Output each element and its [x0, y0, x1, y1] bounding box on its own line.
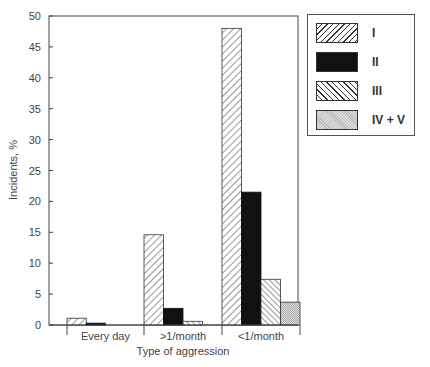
legend-item-IV-V: IV + V — [316, 109, 405, 131]
y-tick-label: 50 — [29, 10, 41, 22]
y-tick-label: 0 — [35, 319, 41, 331]
bar-II-1 — [164, 308, 184, 325]
y-axis-label: Incidents, % — [7, 140, 19, 200]
legend-item-I: I — [316, 22, 375, 44]
swatch-stipple-gray-icon — [316, 110, 358, 130]
x-tick-label: Every day — [81, 330, 130, 342]
y-tick-label: 30 — [29, 134, 41, 146]
swatch-hatch-backward-icon — [316, 81, 358, 101]
y-tick-label: 10 — [29, 257, 41, 269]
bar-I-0 — [67, 318, 86, 325]
y-tick-label: 20 — [29, 195, 41, 207]
y-tick-label: 45 — [29, 41, 41, 53]
bar-IVV-2 — [281, 302, 301, 325]
bar-III-1 — [183, 321, 203, 325]
swatch-solid-black-icon — [316, 52, 358, 72]
y-tick-label: 25 — [29, 165, 41, 177]
bar-III-2 — [261, 279, 281, 325]
legend-label: III — [372, 84, 382, 98]
legend-label: II — [372, 55, 379, 69]
legend-item-II: II — [316, 51, 379, 73]
y-tick-label: 40 — [29, 72, 41, 84]
x-tick-label: <1/month — [238, 330, 284, 342]
legend: I II III IV + V — [307, 14, 415, 136]
bar-I-1 — [144, 235, 164, 325]
legend-label: I — [372, 26, 375, 40]
x-axis-label: Type of aggression — [137, 345, 230, 357]
y-tick-label: 35 — [29, 103, 41, 115]
bars — [67, 28, 300, 325]
legend-label: IV + V — [372, 113, 405, 127]
x-axis: Every day>1/month<1/month — [49, 325, 300, 342]
y-tick-label: 15 — [29, 226, 41, 238]
x-tick-label: >1/month — [160, 330, 206, 342]
bar-I-2 — [222, 28, 242, 325]
bar-II-2 — [242, 192, 262, 325]
swatch-hatch-forward-icon — [316, 23, 358, 43]
legend-item-III: III — [316, 80, 382, 102]
y-tick-label: 5 — [35, 288, 41, 300]
